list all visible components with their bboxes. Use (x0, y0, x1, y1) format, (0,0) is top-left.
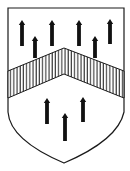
heraldic-shield (0, 0, 130, 171)
